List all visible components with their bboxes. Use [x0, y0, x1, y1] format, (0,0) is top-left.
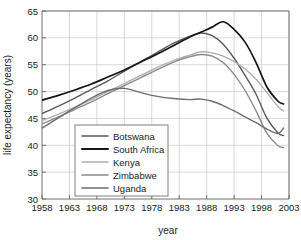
y-tick-label-45: 45 [27, 113, 38, 124]
x-tick-label-1993: 1993 [224, 202, 245, 213]
x-tick-label-1958: 1958 [31, 202, 52, 213]
x-tick-label-1978: 1978 [141, 202, 162, 213]
x-tick-label-1988: 1988 [196, 202, 217, 213]
x-tick-label-1973: 1973 [114, 202, 135, 213]
legend-label-uganda: Uganda [113, 183, 147, 194]
chart-canvas: 3035404550556065 19581963196819731978198… [0, 0, 301, 240]
y-axis-label: life expectancy (years) [2, 55, 13, 155]
life-expectancy-chart: 3035404550556065 19581963196819731978198… [0, 0, 301, 240]
y-tick-label-55: 55 [27, 59, 38, 70]
x-tick-label-2003: 2003 [278, 202, 299, 213]
chart-legend: BotswanaSouth AfricaKenyaZimbabweUganda [75, 125, 168, 196]
y-tick-label-65: 65 [27, 6, 38, 17]
legend-label-botswana: Botswana [113, 131, 155, 142]
x-tick-label-1998: 1998 [251, 202, 272, 213]
x-axis-label: year [158, 225, 178, 236]
x-tick-label-1983: 1983 [169, 202, 190, 213]
y-tick-label-35: 35 [27, 167, 38, 178]
legend-label-kenya: Kenya [113, 157, 141, 168]
legend-label-south-africa: South Africa [113, 144, 165, 155]
x-tick-label-1963: 1963 [59, 202, 80, 213]
x-tick-label-1968: 1968 [86, 202, 107, 213]
y-tick-label-40: 40 [27, 140, 38, 151]
y-tick-label-60: 60 [27, 32, 38, 43]
legend-label-zimbabwe: Zimbabwe [113, 170, 157, 181]
y-tick-label-50: 50 [27, 86, 38, 97]
